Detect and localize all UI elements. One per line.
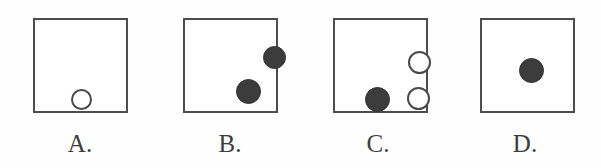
option-c-circle-3-open — [407, 87, 430, 110]
option-b-label: B. — [155, 128, 305, 160]
option-a-label: A. — [5, 128, 155, 160]
option-b-square — [183, 18, 278, 113]
option-c-label: C. — [303, 128, 453, 160]
option-c-circle-1-open — [408, 51, 431, 74]
option-d-label: D. — [450, 128, 600, 160]
option-b-circle-1-filled — [263, 46, 286, 69]
option-c-square — [333, 18, 428, 113]
option-d-square — [480, 18, 575, 113]
answer-option-b[interactable]: B. — [155, 0, 305, 168]
option-a-square — [33, 18, 128, 113]
option-d-circle-1-filled — [519, 58, 544, 83]
answer-option-d[interactable]: D. — [450, 0, 600, 168]
option-c-circle-2-filled — [365, 87, 390, 112]
option-a-circle-1-open — [71, 89, 92, 110]
option-b-circle-2-filled — [236, 79, 261, 104]
answer-option-c[interactable]: C. — [303, 0, 453, 168]
answer-option-a[interactable]: A. — [5, 0, 155, 168]
answer-choice-figure: A. B. C. D. — [0, 0, 601, 168]
